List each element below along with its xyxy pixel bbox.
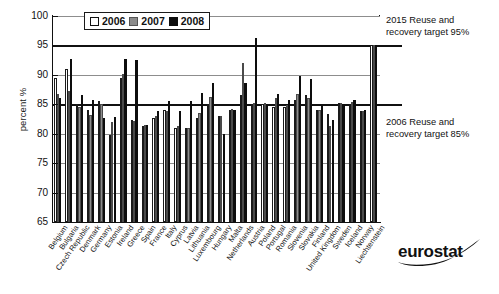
y-tick-mark	[53, 75, 58, 76]
bar-group	[369, 16, 380, 222]
black-square-icon	[169, 17, 178, 26]
bar-group	[260, 16, 271, 222]
legend-label: 2008	[181, 16, 204, 27]
bar	[201, 93, 203, 222]
bar-group	[336, 16, 347, 222]
legend-label: 2006	[102, 16, 125, 27]
bar-group	[129, 16, 140, 222]
bar-group	[217, 16, 228, 222]
bar	[223, 134, 225, 222]
bar	[92, 100, 94, 222]
bar	[299, 76, 301, 222]
y-tick-label: 80	[22, 129, 48, 139]
y-tick-label: 90	[22, 70, 48, 80]
bar-group	[64, 16, 75, 222]
white-square-icon	[90, 17, 99, 26]
y-tick-mark	[53, 134, 58, 135]
bar-series-container	[53, 16, 380, 222]
bar	[277, 94, 279, 222]
x-axis-tick-labels: BelgiumBulgariaCzech RepublicDenmarkGerm…	[53, 224, 383, 294]
bar	[157, 111, 159, 222]
bar-group	[140, 16, 151, 222]
y-tick-mark	[53, 104, 58, 105]
bar-group	[238, 16, 249, 222]
bar	[255, 38, 257, 222]
bar-group	[227, 16, 238, 222]
bar-group	[108, 16, 119, 222]
y-tick-label: 95	[22, 40, 48, 50]
plot-area	[53, 16, 380, 222]
bar-group	[173, 16, 184, 222]
bar	[124, 59, 126, 222]
bar-group	[271, 16, 282, 222]
bar-group	[358, 16, 369, 222]
bar	[103, 118, 105, 222]
bar	[364, 110, 366, 222]
bar	[59, 98, 61, 222]
bar-group	[206, 16, 217, 222]
bar	[342, 104, 344, 222]
annotation-2015-line1: 2015 Reuse and	[386, 15, 496, 27]
legend-item: 2006	[90, 16, 125, 27]
bar-group	[53, 16, 64, 222]
eurostat-wordmark: eurostat	[398, 242, 463, 262]
bar-group	[249, 16, 260, 222]
bar	[233, 110, 235, 222]
target-line-extension	[380, 45, 402, 47]
annotation-2015-line2: recovery target 95%	[386, 27, 496, 39]
y-tick-mark	[53, 45, 58, 46]
bar	[266, 104, 268, 222]
y-tick-mark	[53, 222, 58, 223]
bar	[179, 111, 181, 222]
gray-square-icon	[129, 17, 138, 26]
y-tick-mark	[53, 163, 58, 164]
bar-group	[162, 16, 173, 222]
bar-group	[326, 16, 337, 222]
y-tick-label: 70	[22, 188, 48, 198]
target-line-extension	[380, 104, 402, 106]
y-tick-label: 75	[22, 158, 48, 168]
chart-figure: percent % 65707580859095100 200620072008…	[0, 0, 499, 294]
bar	[244, 83, 246, 222]
bar	[146, 125, 148, 222]
annotation-2015-target: 2015 Reuse and recovery target 95%	[386, 15, 496, 38]
bar	[353, 100, 355, 222]
bar	[168, 101, 170, 222]
bar-group	[86, 16, 97, 222]
annotation-2006-line2: recovery target 85%	[386, 129, 496, 141]
y-tick-mark	[53, 193, 58, 194]
bar	[321, 106, 323, 222]
y-tick-mark	[53, 16, 58, 17]
bar-group	[304, 16, 315, 222]
y-axis-tick-labels: 65707580859095100	[20, 0, 48, 294]
legend-item: 2008	[169, 16, 204, 27]
bar-group	[75, 16, 86, 222]
bar	[375, 45, 377, 222]
bar	[114, 117, 116, 222]
bar-group	[315, 16, 326, 222]
bar-group	[195, 16, 206, 222]
bar-group	[282, 16, 293, 222]
bar	[212, 83, 214, 222]
bar-group	[347, 16, 358, 222]
bar	[81, 95, 83, 222]
chart-legend: 200620072008	[84, 12, 210, 30]
bar-group	[97, 16, 108, 222]
bar-group	[151, 16, 162, 222]
bar	[310, 79, 312, 222]
bar	[70, 59, 72, 222]
bar	[288, 100, 290, 222]
bar	[190, 101, 192, 222]
legend-item: 2007	[129, 16, 164, 27]
y-tick-label: 100	[22, 11, 48, 21]
bar-group	[184, 16, 195, 222]
eurostat-logo: eurostat	[392, 236, 492, 270]
bar-group	[293, 16, 304, 222]
bar	[135, 60, 137, 222]
bar	[332, 120, 334, 222]
legend-label: 2007	[141, 16, 164, 27]
annotation-2006-target: 2006 Reuse and recovery target 85%	[386, 117, 496, 140]
bar-group	[118, 16, 129, 222]
y-tick-label: 85	[22, 99, 48, 109]
y-tick-label: 65	[22, 217, 48, 227]
